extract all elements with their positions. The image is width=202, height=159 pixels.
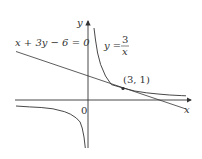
- curve-equation-lhs: y =: [103, 40, 121, 51]
- origin-label: 0: [81, 105, 87, 116]
- hyperbola-branch-negative: [16, 106, 85, 148]
- x-axis-label: x: [184, 104, 190, 115]
- curve-numerator: 3: [122, 34, 128, 45]
- diagram: y x 0 x + 3y − 6 = 0 y = 3 x (3, 1): [0, 0, 202, 159]
- curve-denominator: x: [122, 46, 128, 57]
- y-axis-label: y: [76, 17, 83, 28]
- line-equation-label: x + 3y − 6 = 0: [15, 37, 90, 48]
- hyperbola-branch-positive: [94, 28, 186, 96]
- point-label: (3, 1): [123, 74, 150, 85]
- tangent-point: [121, 87, 124, 90]
